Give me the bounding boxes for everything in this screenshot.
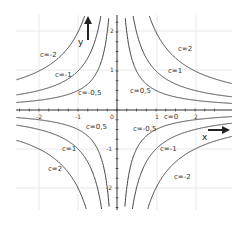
curve-c=1	[133, 16, 232, 97]
curve-label: c=-1	[55, 71, 72, 79]
hyperbola-family-chart: y x -2 -1 0 1 2 2 1 -1 -2 c=2 c=1 c=0,5 …	[0, 0, 246, 229]
curve-label: c=-2	[174, 173, 191, 181]
curves	[16, 16, 231, 209]
x-tick-label: 2	[194, 113, 198, 120]
x-tick-label: 1	[155, 113, 159, 120]
curve-label: c=-0,5	[133, 125, 156, 133]
curve-label: c=0,5	[86, 123, 107, 131]
y-tick-label: -2	[106, 184, 112, 191]
axes	[16, 15, 232, 210]
curve-label: c=1	[62, 145, 76, 153]
curve-label: c=2	[178, 45, 192, 53]
curve-label: c=2	[48, 165, 62, 173]
y-arrow-icon	[84, 16, 92, 40]
x-arrow-icon	[208, 126, 230, 134]
grid	[16, 15, 232, 210]
y-tick-label: -1	[106, 145, 112, 152]
y-axis-label: y	[78, 37, 84, 47]
x-tick-label: -1	[75, 113, 81, 120]
x-axis-label: x	[202, 132, 208, 142]
curve-label: c=-0,5	[78, 89, 101, 97]
x-tick-label: 0	[110, 113, 114, 120]
curve-label: c=-2	[40, 51, 57, 59]
curve-label: c=1	[168, 67, 182, 75]
curve-label: c=-1	[160, 145, 177, 153]
y-tick-label: 1	[110, 66, 114, 73]
y-tick-label: 2	[110, 27, 114, 34]
x-tick-label: -2	[36, 113, 42, 120]
curve-label: c=0,5	[130, 87, 151, 95]
curve-label-c0: c=0	[164, 113, 178, 121]
curve-c=-1	[132, 123, 231, 209]
